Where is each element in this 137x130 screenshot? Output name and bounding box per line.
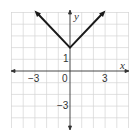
x-tick-0: 0 xyxy=(62,74,68,84)
x-tick-neg3: −3 xyxy=(28,74,39,84)
x-axis-label: x xyxy=(120,60,125,71)
y-axis-label: y xyxy=(74,11,79,22)
graph xyxy=(0,0,137,130)
y-tick-neg3: −3 xyxy=(57,101,68,111)
y-tick-1: 1 xyxy=(63,54,69,64)
x-tick-3: 3 xyxy=(102,74,108,84)
axes xyxy=(11,10,129,130)
